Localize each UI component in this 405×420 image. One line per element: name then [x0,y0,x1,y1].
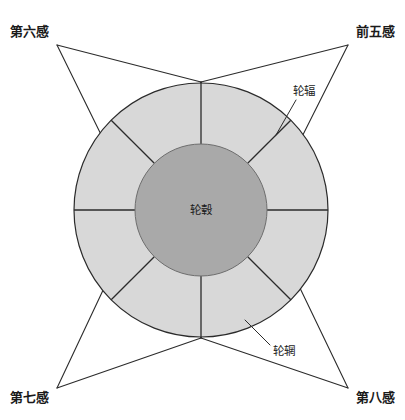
corner-label-bottom-right: 第八感 [356,390,395,405]
hub-label: 轮毂 [190,203,213,217]
rim-callout-label: 轮辋 [273,344,295,358]
wheel-diagram-svg: 轮毂 轮辐 轮辋 第六感 前五感 第七感 第八感 [0,0,405,420]
corner-label-bottom-left: 第七感 [10,390,49,405]
corner-label-top-right: 前五感 [356,24,395,39]
connector-topright-to-top [201,45,348,82]
spoke-callout-label: 轮辐 [293,84,315,98]
wheel-diagram-figure: 轮毂 轮辐 轮辋 第六感 前五感 第七感 第八感 [0,0,405,420]
corner-label-top-left: 第六感 [10,24,49,39]
connector-topleft-to-top [57,45,201,82]
connector-bottomleft-to-bottom [57,338,201,388]
